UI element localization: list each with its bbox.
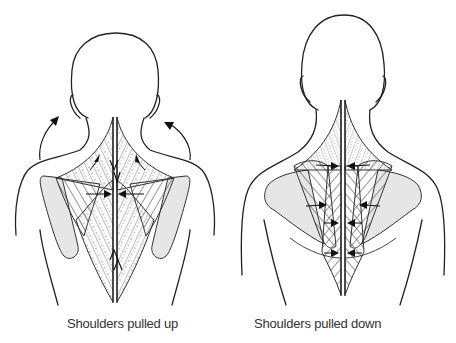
- head-outline: [71, 33, 158, 118]
- torso-right: [172, 230, 190, 305]
- head-outline: [302, 15, 385, 110]
- caption-shoulders-pulled-up: Shoulders pulled up: [67, 316, 178, 331]
- torso-right: [400, 220, 422, 305]
- arrow-up-right-shoulder: [170, 124, 190, 160]
- torso-left: [40, 230, 58, 305]
- back-illustration-shoulders-down: [228, 0, 456, 343]
- arrow-up-left-shoulder: [40, 120, 56, 160]
- figure-shoulders-pulled-down: Shoulders pulled down: [228, 0, 456, 343]
- upper-trapezius-left: [294, 100, 341, 170]
- caption-shoulders-pulled-down: Shoulders pulled down: [254, 316, 381, 331]
- back-illustration-shoulders-up: [0, 0, 228, 343]
- upper-trapezius-right: [345, 100, 392, 170]
- torso-left: [264, 220, 286, 305]
- figure-shoulders-pulled-up: Shoulders pulled up: [0, 0, 228, 343]
